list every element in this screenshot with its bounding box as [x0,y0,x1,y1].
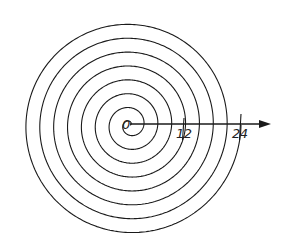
label-twenty-four: 24 [232,127,248,140]
spiral-diagram [0,0,283,245]
label-zero: 0 [122,118,130,131]
spiral-curve [26,24,241,232]
arrow-head-icon [259,120,271,128]
label-twelve: 12 [176,127,192,140]
